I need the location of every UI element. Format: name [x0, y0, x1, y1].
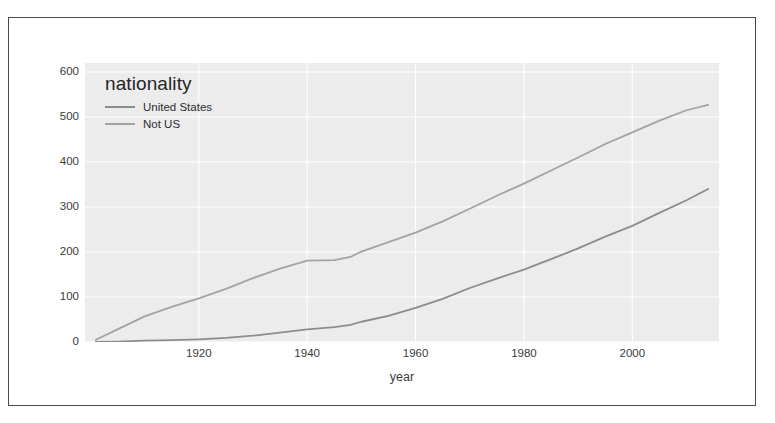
legend-entries: United StatesNot US — [105, 99, 295, 133]
x-tick-label: 1980 — [494, 348, 554, 360]
x-tick-label: 1920 — [169, 348, 229, 360]
y-tick-label: 0 — [39, 336, 79, 348]
x-tick-label: 1960 — [386, 348, 446, 360]
legend-title: nationality — [105, 73, 295, 95]
x-tick-label: 1940 — [277, 348, 337, 360]
y-tick-label: 200 — [39, 246, 79, 258]
y-tick-label: 400 — [39, 156, 79, 168]
legend-entry-label: Not US — [143, 119, 180, 131]
x-tick-label: 2000 — [602, 348, 662, 360]
series-line-0 — [96, 189, 708, 342]
figure-frame: 0100200300400500600 19201940196019802000… — [8, 17, 756, 406]
legend: nationality United StatesNot US — [105, 73, 295, 133]
legend-entry[interactable]: United States — [105, 99, 295, 116]
x-axis-label: year — [85, 370, 719, 384]
screenshot-root: 0100200300400500600 19201940196019802000… — [0, 0, 775, 423]
legend-line-swatch — [105, 123, 135, 125]
legend-line-swatch — [105, 106, 135, 108]
legend-entry[interactable]: Not US — [105, 116, 295, 133]
legend-entry-label: United States — [143, 102, 212, 114]
series-line-1 — [96, 105, 708, 340]
y-axis-tick-labels: 0100200300400500600 — [35, 63, 79, 342]
y-tick-label: 100 — [39, 291, 79, 303]
y-tick-label: 500 — [39, 111, 79, 123]
x-axis-tick-labels: 19201940196019802000 — [85, 348, 719, 366]
y-tick-label: 300 — [39, 201, 79, 213]
y-tick-label: 600 — [39, 66, 79, 78]
